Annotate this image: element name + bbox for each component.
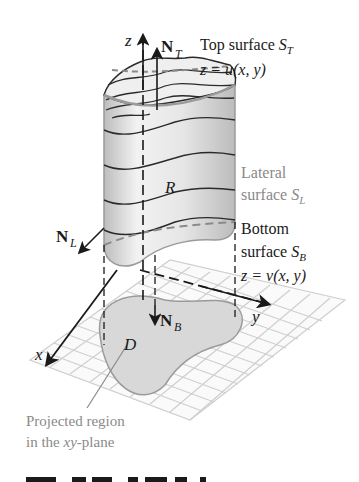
figure-caption-cutoff	[26, 477, 206, 482]
svg-text:surface SL: surface SL	[241, 186, 305, 206]
normal-lateral-arrow	[80, 228, 104, 252]
svg-text:Top surface ST: Top surface ST	[200, 36, 294, 56]
bottom-surface-annotation: Bottom surface SB z = v(x, y)	[240, 220, 306, 285]
svg-text:surface SB: surface SB	[241, 243, 306, 263]
svg-text:N: N	[160, 311, 173, 330]
svg-text:N: N	[161, 37, 174, 56]
svg-text:N: N	[56, 227, 69, 246]
svg-text:Projected region: Projected region	[26, 413, 125, 429]
svg-text:z = v(x, y): z = v(x, y)	[240, 267, 306, 285]
svg-text:B: B	[174, 320, 182, 334]
lateral-surface-annotation: Lateral surface SL	[241, 164, 305, 206]
solid-region-diagram: z x y R D N T N L N B Top surface ST z =…	[0, 0, 359, 482]
top-surface-annotation: Top surface ST z = u(x, y)	[199, 36, 294, 79]
svg-text:L: L	[69, 236, 77, 250]
svg-text:Bottom: Bottom	[241, 220, 290, 237]
normal-top-label: N T	[161, 37, 183, 61]
svg-text:z = u(x, y): z = u(x, y)	[199, 61, 266, 79]
normal-lateral-label: N L	[56, 227, 77, 250]
svg-text:Lateral: Lateral	[241, 164, 287, 181]
x-axis-label: x	[34, 345, 43, 364]
z-axis-label: z	[124, 31, 132, 50]
region-D-label: D	[123, 335, 137, 354]
svg-text:in the xy-plane: in the xy-plane	[26, 434, 115, 450]
region-R-label: R	[164, 178, 176, 197]
projected-region-annotation: Projected region in the xy-plane	[26, 413, 125, 450]
y-axis-label: y	[250, 307, 260, 326]
